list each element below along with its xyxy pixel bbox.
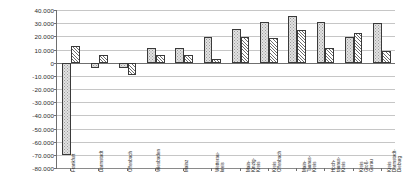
bar-group bbox=[91, 10, 109, 168]
bar bbox=[184, 55, 193, 62]
bars-layer bbox=[57, 10, 395, 168]
y-tick-label: -10.000 bbox=[32, 72, 54, 79]
x-tick-label: Kreis Groß- Gerau bbox=[359, 159, 375, 172]
bar bbox=[373, 23, 382, 63]
y-axis-tick-labels: 40.00030.00020.00010.0000-10.000-20.000-… bbox=[0, 0, 54, 189]
bar-group bbox=[232, 10, 250, 168]
x-tick-label: Darmstadt bbox=[99, 151, 104, 172]
y-tick-label: 40.000 bbox=[34, 7, 54, 14]
x-tick-label: Wiesbaden bbox=[156, 149, 161, 172]
bar bbox=[260, 22, 269, 63]
x-tick-label: Frankfurt bbox=[71, 154, 76, 172]
bar-group bbox=[119, 10, 137, 168]
x-tick-label: Hoch- taunus- Kreis bbox=[331, 157, 347, 172]
y-tick-label: 30.000 bbox=[34, 20, 54, 27]
bar bbox=[325, 48, 334, 62]
bar-group bbox=[345, 10, 363, 168]
x-tick-label: Kreis Darmstadt- Dieburg bbox=[387, 149, 403, 172]
bar bbox=[297, 30, 306, 62]
x-axis-tick-labels: FrankfurtDarmstadtOffenbachWiesbadenMain… bbox=[56, 168, 395, 189]
y-tick-label: -30.000 bbox=[32, 99, 54, 106]
bar bbox=[62, 63, 71, 155]
x-tick-mark bbox=[268, 168, 269, 171]
bar bbox=[91, 63, 100, 68]
bar bbox=[345, 37, 354, 63]
bar bbox=[128, 63, 137, 75]
x-tick-label: Mainz bbox=[184, 160, 189, 172]
plot-area bbox=[56, 10, 395, 168]
bar-group bbox=[204, 10, 222, 168]
x-tick-mark bbox=[296, 168, 297, 171]
bar bbox=[382, 51, 391, 62]
x-tick-mark bbox=[211, 168, 212, 171]
bar-group bbox=[175, 10, 193, 168]
y-tick-label: -80.000 bbox=[32, 165, 54, 172]
x-tick-label: Main- Kinzig- Kreis bbox=[246, 158, 262, 172]
x-tick-label: Wetterau- kreis bbox=[215, 152, 225, 172]
bar bbox=[354, 33, 363, 63]
bar-group bbox=[62, 10, 80, 168]
bar bbox=[232, 29, 241, 63]
bar-group bbox=[317, 10, 335, 168]
x-tick-label: Main- Taunus- Kreis bbox=[302, 156, 318, 172]
y-tick-label: -70.000 bbox=[32, 151, 54, 158]
x-tick-mark bbox=[353, 168, 354, 171]
bar bbox=[175, 48, 184, 63]
bar bbox=[71, 46, 80, 62]
y-tick-label: 20.000 bbox=[34, 33, 54, 40]
bar bbox=[99, 55, 108, 62]
bar bbox=[241, 37, 250, 63]
bar-group bbox=[373, 10, 391, 168]
y-tick-label: -50.000 bbox=[32, 125, 54, 132]
x-tick-mark bbox=[240, 168, 241, 171]
bar bbox=[147, 48, 156, 63]
bar bbox=[156, 55, 165, 62]
bar bbox=[204, 37, 213, 63]
y-tick-label: -40.000 bbox=[32, 112, 54, 119]
bar bbox=[212, 59, 221, 62]
y-tick-label: -60.000 bbox=[32, 138, 54, 145]
y-tick-label: 10.000 bbox=[34, 46, 54, 53]
bar bbox=[119, 63, 128, 68]
y-tick-label: -20.000 bbox=[32, 86, 54, 93]
bar-group bbox=[147, 10, 165, 168]
bar-group bbox=[260, 10, 278, 168]
bar-group bbox=[288, 10, 306, 168]
x-tick-mark bbox=[324, 168, 325, 171]
bar bbox=[317, 22, 326, 63]
x-tick-label: Offenbach bbox=[128, 151, 133, 172]
x-tick-label: Kreis Offenbach bbox=[272, 151, 282, 172]
x-tick-mark bbox=[381, 168, 382, 171]
bar bbox=[288, 16, 297, 63]
bar bbox=[269, 38, 278, 63]
